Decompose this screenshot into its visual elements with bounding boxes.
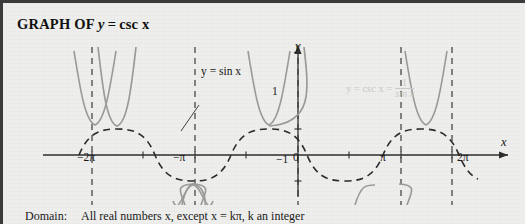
csc-annotation-text: y = csc x = [346, 83, 392, 94]
y-tick-label-negative-one: −1 [276, 153, 288, 165]
csc-curve-group [74, 51, 447, 205]
x-tick-label-2pi: 2π [457, 151, 469, 163]
csc-fraction-denominator: sin x [395, 89, 414, 99]
csc-fraction-numerator: 1 [395, 78, 414, 88]
csc-curve-annotation: y = csc x =1sin x [346, 79, 414, 100]
title-variable: y [98, 16, 105, 32]
title-expression: csc x [119, 16, 149, 32]
csc-branch-1 [74, 51, 116, 125]
page-title: GRAPH OF y=csc x [17, 16, 150, 33]
x-axis-arrow [499, 151, 508, 158]
y-tick-label-one: 1 [272, 85, 278, 97]
sin-label-leader-line [181, 105, 199, 131]
csc-fraction: 1sin x [395, 78, 414, 99]
title-prefix: GRAPH OF [17, 16, 94, 32]
csc-branch-2 [173, 185, 213, 205]
x-tick-label-neg-2pi: −2π [77, 151, 95, 163]
domain-label: Domain: [25, 209, 67, 223]
csc-branch-left-up [98, 47, 136, 126]
domain-text: All real numbers x, except x = kπ, k an … [81, 209, 304, 223]
title-equals: = [108, 16, 116, 32]
x-tick-label-neg-pi: −π [173, 151, 185, 163]
x-tick-label-zero: 0 [293, 151, 299, 163]
y-axis-label: y [295, 39, 301, 54]
sin-curve-annotation: y = sin x [201, 65, 241, 77]
domain-statement: Domain:All real numbers x, except x = kπ… [25, 209, 304, 224]
csc-curve-refined [98, 47, 412, 205]
csc-branch-4 [355, 185, 375, 205]
x-axis-label: x [501, 135, 507, 150]
graph-panel: GRAPH OF y=csc x [0, 0, 525, 224]
csc-graph-plot [3, 33, 525, 205]
csc-branch-3 [248, 51, 290, 125]
x-tick-label-pi: π [380, 151, 386, 163]
